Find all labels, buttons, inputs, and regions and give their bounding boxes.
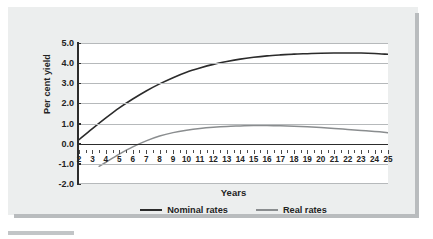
gridline-minus2 [79, 183, 388, 184]
x-tick-mark-minor [260, 150, 261, 153]
y-tick-label: 0.0 [40, 140, 74, 149]
x-axis-tick-labels: 2345678910111213141516171819202122232425 [79, 155, 388, 167]
y-tick-mark [77, 103, 81, 105]
x-tick-mark-minor [153, 150, 154, 153]
y-tick-mark [77, 184, 81, 186]
x-tick-mark [146, 150, 147, 154]
y-tick-mark [77, 63, 81, 65]
bottom-marker-bar [8, 231, 74, 235]
x-tick-mark [254, 150, 255, 154]
x-tick-mark [160, 150, 161, 154]
x-tick-mark-minor [274, 150, 275, 153]
x-tick-mark-minor [328, 150, 329, 153]
x-tick-label: 25 [378, 155, 398, 165]
y-tick-mark [77, 83, 81, 85]
x-tick-mark [307, 150, 308, 154]
x-tick-mark [375, 150, 376, 154]
x-tick-mark-minor [381, 150, 382, 153]
x-tick-mark [388, 150, 389, 154]
x-tick-mark-minor [86, 150, 87, 153]
legend-swatch-icon [256, 209, 278, 211]
gridline-zero-axis [79, 144, 388, 145]
y-tick-label-group: 5.0 4.0 3.0 2.0 1.0 0.0 -1.0 -2.0 [36, 7, 74, 239]
x-tick-mark-minor [287, 150, 288, 153]
x-tick-mark-minor [368, 150, 369, 153]
gridline-4 [79, 63, 388, 64]
y-tick-mark [77, 143, 81, 145]
x-tick-mark-minor [207, 150, 208, 153]
x-tick-mark-minor [180, 150, 181, 153]
x-tick-mark-minor [126, 150, 127, 153]
y-tick-label: 4.0 [40, 59, 74, 68]
x-tick-mark [119, 150, 120, 154]
x-tick-mark-minor [234, 150, 235, 153]
x-tick-mark-minor [220, 150, 221, 153]
y-tick-label: -2.0 [40, 180, 74, 189]
x-tick-mark [79, 150, 80, 154]
x-tick-mark [227, 150, 228, 154]
x-tick-mark-minor [354, 150, 355, 153]
x-tick-mark [200, 150, 201, 154]
x-tick-mark-minor [99, 150, 100, 153]
x-axis-title: Years [79, 187, 388, 198]
x-tick-mark-minor [113, 150, 114, 153]
gridline-5 [79, 43, 388, 44]
gridline-2 [79, 103, 388, 104]
x-tick-mark-minor [193, 150, 194, 153]
figure-panel: Per cent yield 5.0 4.0 3.0 2.0 1.0 0.0 -… [8, 7, 418, 215]
y-tick-mark [77, 43, 81, 45]
x-tick-mark [267, 150, 268, 154]
y-tick-label: 5.0 [40, 39, 74, 48]
x-tick-mark-minor [139, 150, 140, 153]
x-tick-mark-minor [247, 150, 248, 153]
panel-shadow-right [415, 13, 419, 218]
x-tick-mark [361, 150, 362, 154]
x-tick-mark [281, 150, 282, 154]
panel-shadow-bottom [14, 214, 419, 218]
gridline-3 [79, 83, 388, 84]
x-tick-mark [240, 150, 241, 154]
legend-swatch-icon [140, 209, 162, 211]
x-tick-mark [106, 150, 107, 154]
x-tick-mark [173, 150, 174, 154]
x-tick-mark [334, 150, 335, 154]
x-tick-mark [92, 150, 93, 154]
x-tick-mark [133, 150, 134, 154]
x-tick-mark [213, 150, 214, 154]
x-tick-mark-minor [341, 150, 342, 153]
y-tick-label: 3.0 [40, 79, 74, 88]
x-tick-mark [186, 150, 187, 154]
gridline-1 [79, 124, 388, 125]
x-tick-mark-minor [301, 150, 302, 153]
y-tick-label: 1.0 [40, 120, 74, 129]
x-tick-mark-minor [314, 150, 315, 153]
y-tick-label: 2.0 [40, 99, 74, 108]
y-tick-mark [77, 123, 81, 125]
x-tick-mark [294, 150, 295, 154]
x-tick-mark-minor [166, 150, 167, 153]
x-tick-mark [348, 150, 349, 154]
x-tick-mark [321, 150, 322, 154]
